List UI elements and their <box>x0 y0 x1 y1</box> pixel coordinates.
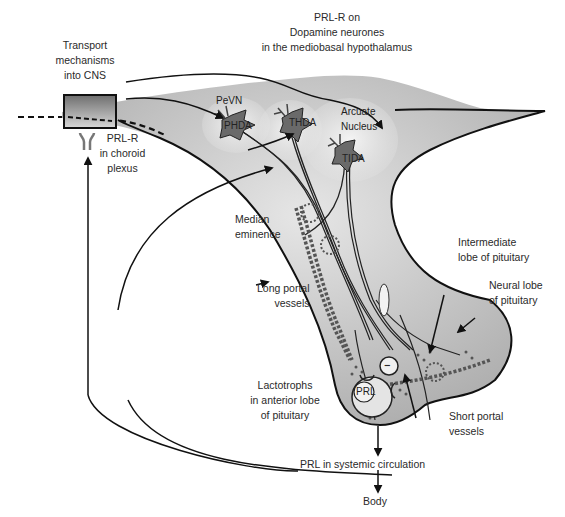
label-line: Lactotrophs <box>245 378 325 393</box>
label-body: Body <box>363 494 387 509</box>
label-short-portal: Short portal vessels <box>449 409 503 439</box>
label-prl-r-choroid: PRL-R in choroid plexus <box>95 131 150 176</box>
label-neural-lobe: Neural lobe of pituitary <box>489 278 543 308</box>
label-line: into CNS <box>40 68 130 83</box>
label-line: Dopamine neurones <box>262 25 412 40</box>
label-line: Arcuate <box>341 104 377 119</box>
label-arcuate: Arcuate Nucleus <box>341 104 377 134</box>
label-line: mechanisms <box>40 53 130 68</box>
label-line: Intermediate <box>458 235 529 250</box>
label-line: Neural lobe <box>489 278 543 293</box>
inhibition-sign: − <box>384 358 390 373</box>
transport-box <box>64 95 116 128</box>
label-line: of pituitary <box>245 408 325 423</box>
label-line: of pituitary <box>489 293 543 308</box>
label-line: vessels <box>449 424 503 439</box>
label-line: lobe of pituitary <box>458 250 529 265</box>
label-long-portal: Long portal vessels <box>257 281 310 311</box>
label-line: Long portal <box>257 281 310 296</box>
label-line: Short portal <box>449 409 503 424</box>
label-line: PRL-R on <box>262 10 412 25</box>
intermediate-lobe-shape <box>379 284 389 316</box>
label-prl-cell: PRL <box>356 384 375 399</box>
prl-r-receptor-icon <box>80 133 94 150</box>
label-line: Transport <box>40 38 130 53</box>
label-line: in anterior lobe <box>245 393 325 408</box>
label-prl-r-dopamine: PRL-R on Dopamine neurones in the mediob… <box>262 10 412 55</box>
label-median-eminence: Median eminence <box>235 212 281 242</box>
label-systemic-circulation: PRL in systemic circulation <box>300 457 425 472</box>
label-line: plexus <box>95 161 150 176</box>
label-transport: Transport mechanisms into CNS <box>40 38 130 83</box>
label-line: vessels <box>257 296 310 311</box>
label-tida: TIDA <box>342 151 365 166</box>
label-line: PRL-R <box>95 131 150 146</box>
label-intermediate-lobe: Intermediate lobe of pituitary <box>458 235 529 265</box>
label-line: in choroid <box>95 146 150 161</box>
label-lactotrophs: Lactotrophs in anterior lobe of pituitar… <box>245 378 325 423</box>
label-line: Nucleus <box>341 119 377 134</box>
label-line: eminence <box>235 227 281 242</box>
label-line: Median <box>235 212 281 227</box>
label-phda: PHDA <box>224 118 252 133</box>
label-pevn: PeVN <box>216 93 242 108</box>
label-thda: THDA <box>289 115 316 130</box>
label-line: in the mediobasal hypothalamus <box>242 40 432 55</box>
